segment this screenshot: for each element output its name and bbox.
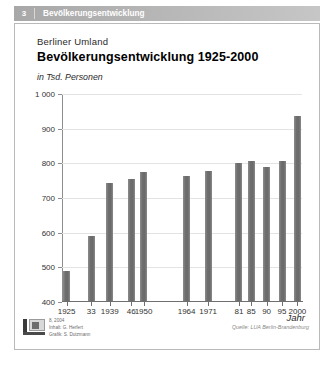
x-axis-tick-label: 85 [247, 307, 256, 316]
figure-page: 3 Bevölkerungsentwicklung Berliner Umlan… [0, 0, 334, 370]
bar [263, 167, 270, 301]
x-axis-tick-label: 1964 [178, 307, 196, 316]
x-axis-tick [239, 302, 240, 306]
x-axis-tick [297, 302, 298, 306]
figure-panel: Berliner Umland Bevölkerungsentwicklung … [14, 23, 320, 350]
x-axis-tick-label: 1971 [199, 307, 217, 316]
credit-line-1: 8, 2004 [49, 317, 90, 324]
x-axis-tick [282, 302, 283, 306]
bar [183, 176, 190, 301]
bar [205, 171, 212, 301]
figure-title: Bevölkerungsentwicklung 1925-2000 [37, 50, 258, 64]
y-axis-tick-label: 500 [42, 263, 55, 272]
bar [106, 183, 113, 301]
bar [279, 161, 286, 301]
y-axis-tick [58, 94, 62, 95]
grid-line [62, 129, 302, 130]
y-axis-tick-label: 1 000 [35, 90, 55, 99]
x-axis-tick-label: 1950 [135, 307, 153, 316]
bar [235, 163, 242, 301]
y-axis-tick [58, 267, 62, 268]
x-axis-tick-label: 95 [278, 307, 287, 316]
y-axis-tick-label: 700 [42, 194, 55, 203]
chapter-separator [34, 8, 35, 19]
ifl-logo-icon [23, 319, 45, 335]
bar [140, 172, 147, 301]
y-axis-tick [58, 302, 62, 303]
credit-line-3: Grafik: S. Dutzmann [49, 331, 90, 338]
y-axis-tick [58, 163, 62, 164]
credit-block: 8, 2004 Inhalt: G. Herfert Grafik: S. Du… [49, 317, 90, 338]
x-axis-tick-label: 81 [234, 307, 243, 316]
bar-chart-plot: 1 00090080070060050040019253319394619501… [62, 94, 302, 302]
x-axis-tick [267, 302, 268, 306]
y-axis-tick [58, 233, 62, 234]
grid-line [62, 163, 302, 164]
figure-supertitle: Berliner Umland [37, 36, 258, 47]
x-axis-tick [91, 302, 92, 306]
x-axis-tick-label: 1939 [101, 307, 119, 316]
bar [128, 179, 135, 301]
x-axis-tick [208, 302, 209, 306]
bar [248, 161, 255, 301]
y-axis-tick-label: 900 [42, 124, 55, 133]
title-block: Berliner Umland Bevölkerungsentwicklung … [37, 36, 258, 82]
y-axis-tick-label: 800 [42, 159, 55, 168]
y-axis-tick-label: 600 [42, 228, 55, 237]
x-axis-tick-label: 90 [262, 307, 271, 316]
x-axis-tick [110, 302, 111, 306]
bar [294, 116, 301, 301]
grid-line [62, 94, 302, 95]
x-axis-tick [144, 302, 145, 306]
figure-unit-label: in Tsd. Personen [37, 72, 258, 82]
bar [63, 271, 70, 301]
x-axis-tick-label: 33 [87, 307, 96, 316]
x-axis-tick [187, 302, 188, 306]
bar [88, 236, 95, 301]
y-axis-tick [58, 198, 62, 199]
x-axis-tick [67, 302, 68, 306]
x-axis-tick [251, 302, 252, 306]
figure-footer: 8, 2004 Inhalt: G. Herfert Grafik: S. Du… [15, 317, 319, 343]
chapter-number: 3 [14, 9, 34, 18]
x-axis-tick-label: 1925 [58, 307, 76, 316]
y-axis-tick [58, 129, 62, 130]
y-axis-tick-label: 400 [42, 298, 55, 307]
chapter-bar: 3 Bevölkerungsentwicklung [14, 6, 320, 21]
source-note: Quelle: LUA Berlin-Brandenburg [232, 324, 309, 330]
x-axis-tick [131, 302, 132, 306]
chapter-title: Bevölkerungsentwicklung [43, 9, 144, 18]
credit-line-2: Inhalt: G. Herfert [49, 324, 90, 331]
